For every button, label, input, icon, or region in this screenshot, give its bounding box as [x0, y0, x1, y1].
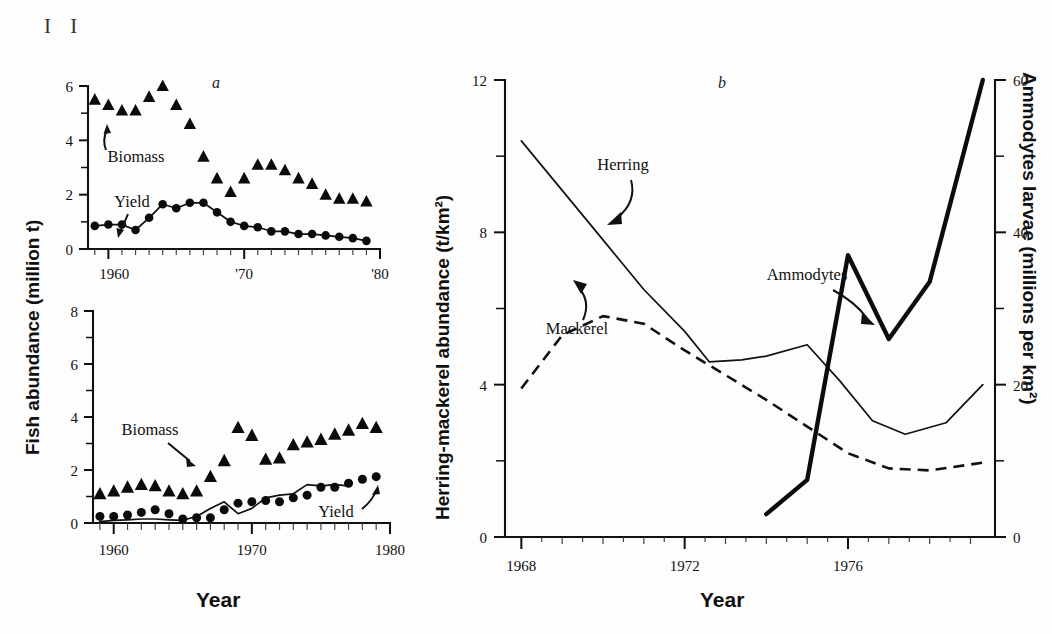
- axis-frame: [93, 311, 390, 523]
- annotations-group: BiomassYield: [104, 124, 165, 238]
- x-tick-label: '80: [371, 266, 389, 282]
- chart-panel-a-top-svg: 02461960'70'80 BiomassYield: [40, 62, 390, 302]
- biomass-marker: [89, 93, 101, 105]
- chart-panel-b-svg: 048120204060196819721976 HerringMackerel…: [455, 62, 1015, 562]
- annotation-ammodytes-arrowhead: [861, 312, 875, 325]
- yield-marker: [316, 483, 325, 492]
- ammodytes-series: [766, 80, 983, 514]
- chart-panel-a-bottom-svg: 02468196019701980 BiomassYield: [40, 295, 400, 565]
- yield-marker: [131, 226, 140, 235]
- biomass-marker: [356, 417, 369, 429]
- biomass-marker: [319, 188, 331, 200]
- annotation-yield-arrowhead: [372, 485, 380, 495]
- yield-marker: [213, 208, 222, 217]
- biomass-marker: [245, 429, 258, 441]
- figure-root: I I Fish abundance (million t) 02461960'…: [0, 0, 1052, 634]
- y-tick-label: 0: [71, 516, 79, 532]
- yield-marker: [330, 483, 339, 492]
- yield-marker: [226, 218, 235, 227]
- panel-a-x-axis-title: Year: [196, 588, 240, 612]
- axis-frame: [88, 86, 380, 249]
- yield-marker: [372, 472, 381, 481]
- biomass-marker: [347, 192, 359, 204]
- yield-marker: [234, 499, 243, 508]
- panel-b-right-y-axis-title: Ammodytes larvae (millions per km²): [1018, 72, 1040, 405]
- biomass-marker: [218, 454, 231, 466]
- axes-group: 02461960'70'80: [66, 79, 389, 283]
- annotation-herring-arrow: [617, 180, 632, 218]
- annotation-biomass: Biomass: [108, 147, 165, 166]
- biomass-marker: [156, 79, 168, 91]
- yield-marker: [247, 497, 256, 506]
- annotations-group: HerringMackerelAmmodytes: [546, 155, 875, 338]
- yield-marker: [109, 512, 118, 521]
- biomass-marker: [224, 185, 236, 197]
- x-tick-label: 1972: [670, 558, 700, 574]
- biomass-marker: [370, 421, 383, 433]
- yield-marker: [261, 496, 270, 505]
- yield-marker: [158, 200, 167, 209]
- yield-marker: [137, 508, 146, 517]
- x-tick-label: 1960: [99, 266, 129, 282]
- y-left-tick-label: 12: [472, 73, 487, 89]
- biomass-marker: [287, 438, 300, 450]
- biomass-marker: [301, 435, 314, 447]
- y-tick-label: 6: [66, 79, 74, 95]
- biomass-marker: [107, 484, 120, 496]
- yield-marker: [164, 509, 173, 518]
- yield-marker: [95, 512, 104, 521]
- x-tick-label: '70: [235, 266, 253, 282]
- yield-marker: [281, 227, 290, 236]
- x-tick-label: 1976: [833, 558, 864, 574]
- biomass-marker: [121, 480, 134, 492]
- y-left-tick-label: 0: [480, 530, 488, 546]
- yield-marker: [104, 220, 113, 229]
- annotation-biomass-arrowhead: [104, 124, 112, 134]
- y-tick-label: 8: [71, 304, 79, 320]
- yield-marker: [123, 511, 132, 520]
- annotation-biomass-arrow: [168, 443, 190, 461]
- chart-panel-b: 048120204060196819721976 HerringMackerel…: [455, 62, 1015, 562]
- mackerel-series: [521, 316, 983, 470]
- biomass-marker: [273, 451, 286, 463]
- yield-marker: [145, 213, 154, 222]
- biomass-marker: [292, 172, 304, 184]
- yield-marker: [186, 199, 195, 208]
- biomass-marker: [135, 478, 148, 490]
- y-left-tick-label: 4: [480, 378, 488, 394]
- biomass-marker: [342, 423, 355, 435]
- biomass-marker: [93, 487, 106, 499]
- panel-b-left-y-axis-title: Herring-mackerel abundance (t/km²): [432, 195, 454, 520]
- yield-marker: [358, 475, 367, 484]
- yield-marker: [303, 491, 312, 500]
- y-tick-label: 6: [71, 357, 79, 373]
- biomass-marker: [306, 177, 318, 189]
- x-tick-label: 1970: [237, 542, 267, 558]
- annotation-ammodytes: Ammodytes: [767, 265, 848, 284]
- chart-panel-a-bottom: 02468196019701980 BiomassYield: [40, 295, 400, 565]
- biomass-marker: [170, 99, 182, 111]
- annotation-mackerel: Mackerel: [546, 319, 609, 338]
- biomass-marker: [279, 164, 291, 176]
- yield-marker: [321, 231, 330, 240]
- annotation-mackerel-arrowhead: [573, 280, 587, 294]
- biomass-marker: [190, 484, 203, 496]
- biomass-marker: [328, 427, 341, 439]
- yield-marker: [289, 493, 298, 502]
- yield-marker: [199, 199, 208, 208]
- series-group: [521, 80, 983, 514]
- biomass-marker: [204, 470, 217, 482]
- biomass-marker: [149, 479, 162, 491]
- x-tick-label: 1960: [99, 542, 129, 558]
- annotation-mackerel-arrow: [579, 288, 586, 320]
- annotation-herring: Herring: [597, 155, 648, 174]
- y-tick-label: 4: [71, 410, 79, 426]
- biomass-marker: [129, 104, 141, 116]
- y-tick-label: 2: [71, 463, 79, 479]
- axis-frame: [505, 80, 995, 537]
- yield-marker: [294, 230, 303, 239]
- yield-marker: [253, 223, 262, 232]
- biomass-marker: [333, 192, 345, 204]
- y-left-tick-label: 8: [480, 225, 488, 241]
- panel-b-x-axis-title: Year: [700, 588, 744, 612]
